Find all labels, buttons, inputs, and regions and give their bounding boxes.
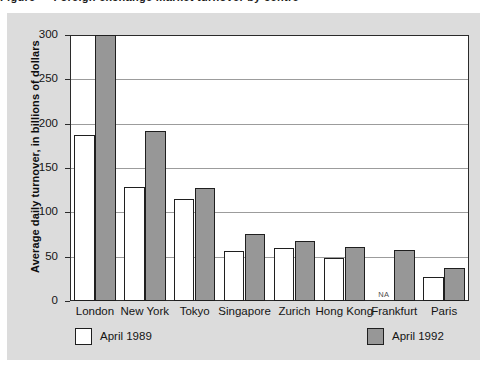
bar	[195, 188, 216, 301]
bar	[444, 268, 465, 301]
bar	[324, 258, 345, 301]
figure-caption-cutoff: Figure — Foreign exchange market turnove…	[0, 0, 487, 4]
bar	[224, 251, 245, 301]
legend-label: April 1992	[392, 330, 444, 342]
legend-label: April 1989	[100, 330, 152, 342]
bar-series-layer: NA	[70, 35, 469, 301]
y-tick-label: 250	[12, 73, 58, 85]
y-tick-label: 200	[12, 118, 58, 130]
figure-container: Figure — Foreign exchange market turnove…	[0, 0, 487, 367]
y-tick-label: 300	[12, 29, 58, 41]
bar	[245, 234, 266, 301]
bar	[124, 187, 145, 301]
y-tick-label: 50	[12, 251, 58, 263]
bar	[394, 250, 415, 301]
bar	[174, 199, 195, 301]
bar	[423, 277, 444, 301]
y-tick-label: 100	[12, 206, 58, 218]
chart-panel: Average daily turnover, in billions of d…	[7, 13, 480, 360]
y-tick-label: 150	[12, 162, 58, 174]
bar	[274, 248, 295, 301]
bar	[345, 247, 366, 301]
x-axis-label: Paris	[407, 305, 481, 317]
bar	[295, 241, 316, 301]
bar	[145, 131, 166, 301]
bar	[74, 135, 95, 301]
bar-na-label: NA	[373, 290, 394, 299]
bar	[95, 35, 116, 301]
legend-swatch	[367, 328, 384, 345]
y-tick-label: 0	[12, 295, 58, 307]
legend-swatch	[75, 328, 92, 345]
y-tick-mark	[65, 301, 70, 302]
